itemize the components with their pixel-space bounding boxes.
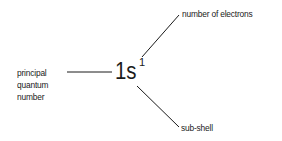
number-of-electrons-label: number of electrons <box>182 8 253 20</box>
sub-shell-label: sub-shell <box>181 122 213 134</box>
principal-label-line-3: number <box>17 91 48 103</box>
principal-quantum-number-label: principal quantum number <box>17 67 48 103</box>
principal-label-line-2: quantum <box>17 79 48 91</box>
subshell-connector <box>137 86 179 127</box>
principal-label-line-1: principal <box>17 67 48 79</box>
electrons-connector <box>142 15 179 57</box>
electron-configuration-notation: 1s <box>115 58 137 84</box>
electron-count-superscript: 1 <box>139 56 145 68</box>
